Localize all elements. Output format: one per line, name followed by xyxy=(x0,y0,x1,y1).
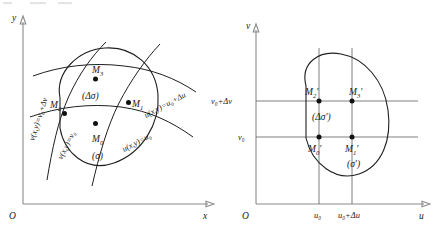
label-curve-u-upper: u(x,y)=u₀+Δu xyxy=(143,90,188,119)
u-axis-label: u xyxy=(419,211,424,221)
origin-label-right: O xyxy=(242,211,249,221)
point-M0-prime xyxy=(317,135,322,140)
point-M1-prime xyxy=(350,135,355,140)
xtick-u0: u₀ xyxy=(314,211,321,220)
label-M0: M0 xyxy=(91,134,104,146)
label-curve-u-lower: u(x,y)=u₀ xyxy=(121,131,153,154)
left-panel: M0 M1 M2 M3 (Δσ) (σ) u(x,y)=u₀+Δu u(x,y)… xyxy=(9,13,214,221)
label-M2-prime: M2′ xyxy=(304,87,319,99)
y-axis-label: y xyxy=(11,13,17,23)
label-M1: M1 xyxy=(131,99,143,111)
point-M0 xyxy=(93,121,98,126)
right-axes xyxy=(253,24,430,207)
label-M1-prime: M1′ xyxy=(344,144,359,156)
scan-noise xyxy=(3,2,72,4)
label-sigma-prime: (σ′) xyxy=(347,159,360,170)
point-M3-prime xyxy=(350,99,355,104)
point-M1 xyxy=(126,100,131,105)
point-M2-prime xyxy=(317,99,322,104)
label-curve-v-upper: v(x,y)=v₀+Δv xyxy=(27,96,49,141)
curve-v-upper xyxy=(33,64,196,92)
label-delta-sigma: (Δσ) xyxy=(82,91,99,102)
point-M2 xyxy=(62,111,67,116)
label-M0-prime: M0′ xyxy=(307,144,322,156)
ytick-v0: v₀ xyxy=(238,133,245,142)
xtick-u0-du: u₀+Δu xyxy=(338,211,360,220)
label-delta-sigma-prime: (Δσ′) xyxy=(312,112,331,123)
label-M3: M3 xyxy=(91,65,104,77)
origin-label-left: O xyxy=(9,211,16,221)
label-M3-prime: M3′ xyxy=(348,87,363,99)
v-axis-label: v xyxy=(246,21,251,31)
x-axis-label: x xyxy=(202,211,208,221)
label-sigma: (σ) xyxy=(92,151,103,162)
math-figure: M0 M1 M2 M3 (Δσ) (σ) u(x,y)=u₀+Δu u(x,y)… xyxy=(0,0,438,229)
right-panel: M2′ M3′ M0′ M1′ (Δσ′) (σ′) v₀+Δv v₀ u₀ u… xyxy=(211,21,430,221)
point-M3 xyxy=(93,77,98,82)
label-curve-v-lower: v(x,y)=v₀ xyxy=(56,130,78,161)
ytick-v0-dv: v₀+Δv xyxy=(211,97,232,106)
